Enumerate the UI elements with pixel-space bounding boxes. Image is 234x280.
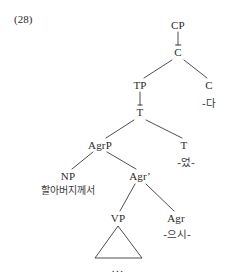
tree-node-vp: VP — [111, 213, 125, 224]
tree-node-prime-mark: ’ — [147, 170, 151, 182]
tree-edge-agrbar-to-vp — [120, 184, 135, 211]
tree-node-label: Agr — [129, 171, 147, 182]
tree-branch-lines — [0, 0, 234, 280]
tree-terminal-np-phrase: 할아버지께서 — [41, 186, 95, 196]
tree-node-label: C — [205, 80, 213, 91]
example-number: (28) — [14, 14, 32, 25]
tree-node-tbar: T — [137, 107, 144, 118]
tree-edge-cbar-to-c — [184, 60, 207, 78]
tree-node-agr: Agr — [167, 213, 185, 224]
tree-terminal-agr-morpheme: -으시- — [163, 229, 191, 240]
vp-ellipsis: ... — [112, 263, 125, 274]
tree-node-label: VP — [111, 213, 125, 224]
tree-node-label: T — [181, 140, 188, 151]
tree-node-label: NP — [61, 171, 75, 182]
tree-edge-agrp-to-np — [72, 152, 93, 169]
tree-node-cp: CP — [171, 20, 185, 31]
tree-node-agrbar: Agr’ — [129, 171, 151, 182]
tree-terminal-c-morpheme: -다 — [202, 98, 216, 109]
tree-edge-tbar-to-agrp — [106, 120, 134, 138]
tree-node-label: Agr — [167, 213, 185, 224]
tree-edge-agrbar-to-agr — [146, 184, 174, 211]
syntax-tree-figure: (28) CPCTPCTAgrPTNPAgr’VPAgr -다-었-할아버지께서… — [0, 0, 234, 280]
tree-node-cbar: C — [174, 47, 182, 58]
tree-node-c: C — [205, 80, 213, 91]
tree-node-label: TP — [133, 80, 146, 91]
tree-node-tp: TP — [133, 80, 146, 91]
tree-edge-agrp-to-agrbar — [107, 152, 136, 169]
tree-edge-cbar-to-tp — [144, 60, 172, 78]
tree-node-label: T — [137, 107, 144, 118]
tree-node-label: AgrP — [88, 140, 112, 151]
tree-node-t: T — [181, 140, 188, 151]
tree-terminal-t-morpheme: -었- — [177, 157, 195, 168]
tree-node-np: NP — [61, 171, 75, 182]
tree-node-label: C — [174, 47, 182, 58]
vp-triangle — [95, 226, 142, 258]
tree-node-label: CP — [171, 20, 185, 31]
tree-edge-tbar-to-t — [146, 120, 182, 138]
tree-node-agrp: AgrP — [88, 140, 112, 151]
